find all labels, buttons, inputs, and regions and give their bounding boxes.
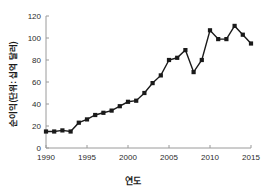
y-tick-label: 60: [32, 78, 41, 87]
data-point-marker: [60, 128, 64, 132]
data-point-marker: [241, 33, 245, 37]
data-point-marker: [69, 129, 73, 133]
data-point-marker: [183, 48, 187, 52]
data-point-marker: [175, 56, 179, 60]
data-point-marker: [159, 73, 163, 77]
data-point-marker: [93, 113, 97, 117]
data-point-marker: [52, 129, 56, 133]
y-tick-label: 40: [32, 100, 41, 109]
data-series-line: [46, 26, 251, 132]
data-point-markers: [44, 24, 253, 134]
data-point-marker: [192, 70, 196, 74]
x-axis-title: 연도: [0, 174, 266, 187]
x-tick-label: 1995: [78, 153, 96, 162]
data-point-marker: [101, 111, 105, 115]
y-tick-label: 80: [32, 56, 41, 65]
data-point-marker: [118, 104, 122, 108]
plot-area: 020406080100120 199019952000200520102015: [0, 0, 266, 193]
data-point-marker: [208, 28, 212, 32]
y-tick-label: 0: [37, 144, 42, 153]
y-tick-label: 120: [28, 12, 42, 21]
data-point-marker: [167, 58, 171, 62]
x-tick-label: 2005: [160, 153, 178, 162]
data-point-marker: [126, 100, 130, 104]
chart-container: 순이익(단위: 십억 달러) 020406080100120 199019952…: [0, 0, 266, 193]
x-tick-label: 2015: [242, 153, 260, 162]
x-tick-label: 1990: [37, 153, 55, 162]
y-tick-label: 100: [28, 34, 42, 43]
data-point-marker: [85, 117, 89, 121]
data-point-marker: [77, 121, 81, 125]
y-tick-label: 20: [32, 122, 41, 131]
data-point-marker: [233, 24, 237, 28]
data-point-marker: [216, 37, 220, 41]
data-point-marker: [134, 99, 138, 103]
data-point-marker: [142, 91, 146, 95]
data-point-marker: [200, 58, 204, 62]
x-tick-label: 2010: [201, 153, 219, 162]
y-tick-label-group: 020406080100120: [28, 12, 42, 153]
data-point-marker: [151, 81, 155, 85]
data-point-marker: [110, 109, 114, 113]
x-tick-label: 2000: [119, 153, 137, 162]
x-tick-label-group: 199019952000200520102015: [37, 153, 260, 162]
data-point-marker: [224, 37, 228, 41]
data-point-marker: [249, 41, 253, 45]
data-point-marker: [44, 129, 48, 133]
